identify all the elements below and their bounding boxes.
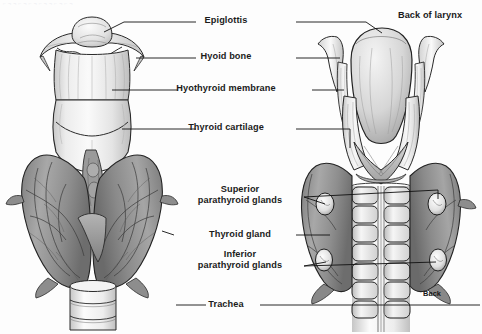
label-superior-parathyroid-glands: Superior parathyroid glands — [178, 184, 302, 207]
label-hyothyroid-membrane: Hyothyroid membrane — [160, 83, 292, 94]
anterior-hyothyroid-membrane — [54, 50, 130, 100]
label-trachea: Trachea — [186, 299, 266, 310]
inferior-parathyroid-right — [430, 249, 447, 271]
leader-thyroid-gland-left — [162, 231, 174, 235]
posterior-epiglottis — [351, 28, 412, 144]
label-back-of-larynx: Back of larynx — [382, 10, 478, 21]
anterior-epiglottis — [72, 17, 112, 47]
inferior-parathyroid-left — [316, 249, 333, 271]
anterior-view-illustration — [6, 17, 178, 330]
label-hyoid-bone: Hyoid bone — [178, 51, 274, 62]
posterior-thyroid-lobe-right — [410, 163, 476, 304]
posterior-view-illustration — [302, 28, 476, 332]
posterior-thyroid-lobe-left — [302, 163, 352, 304]
anterior-vessel-left — [6, 195, 24, 204]
leader-thyroid-cartilage-right — [296, 129, 350, 148]
label-thyroid-gland: Thyroid gland — [186, 229, 294, 240]
label-inferior-parathyroid-glands: Inferior parathyroid glands — [178, 249, 302, 272]
anterior-trachea — [70, 281, 116, 331]
figure-canvas: ⌐ ¬ ¬ ⌐ ¬ ⌐ ¬ ⌐ ¬ ¬ ⌐ ¬ ⌐ ¬ — [0, 0, 482, 334]
superior-parathyroid-right — [428, 193, 446, 215]
anterior-thyroid-lobe-left — [6, 155, 91, 298]
posterior-trachea — [352, 183, 410, 332]
label-back-marker: Back — [423, 289, 441, 298]
label-epiglottis: Epiglottis — [178, 15, 274, 26]
label-thyroid-cartilage: Thyroid cartilage — [178, 122, 274, 133]
